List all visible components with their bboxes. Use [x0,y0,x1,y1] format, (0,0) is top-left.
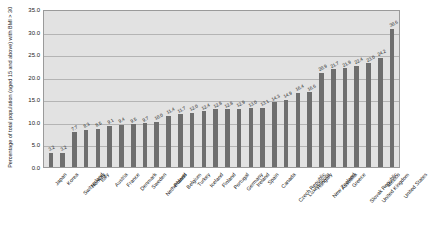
bar-slot: 10.0 [151,11,163,167]
bar: 11.4 [166,116,171,167]
bar: 14.3 [272,102,277,167]
bar-slot: 7.7 [69,11,81,167]
bar: 23.0 [366,63,371,167]
x-label-slot: Hungary [304,169,316,239]
x-label-slot: Sweden [139,169,151,239]
bar-slot: 12.4 [198,11,210,167]
bar-slot: 3.2 [57,11,69,167]
bar-series: 3.23.27.78.38.59.19.49.59.710.011.411.71… [44,11,399,167]
bar-slot: 8.5 [92,11,104,167]
x-label-slot: Mexico [375,169,387,239]
x-label-slot: Germany [233,169,245,239]
y-axis-tick: 35.0 [28,7,40,13]
x-label-slot: Netherlands [150,169,162,239]
x-label-slot: France [115,169,127,239]
bar-value-label: 30.6 [389,20,399,29]
bar-slot: 8.3 [80,11,92,167]
bar-slot: 12.8 [221,11,233,167]
bar-value-label: 8.5 [95,121,103,128]
x-label-slot: Canada [269,169,281,239]
x-label-slot: Denmark [127,169,139,239]
bar: 8.3 [84,130,89,167]
x-label-slot: Switzerland [68,169,80,239]
bar: 21.7 [331,69,336,167]
x-label-slot: Australia [328,169,340,239]
bar-slot: 21.9 [339,11,351,167]
bar: 10.0 [154,122,159,167]
bar: 11.7 [178,114,183,167]
bar-slot: 9.4 [116,11,128,167]
bar: 7.7 [72,132,77,167]
y-axis-tick: 20.0 [28,75,40,81]
bar-value-label: 3.2 [59,145,67,152]
bar-slot: 30.6 [386,11,398,167]
bar: 16.6 [307,92,312,167]
bar-slot: 9.7 [139,11,151,167]
bar-slot: 20.9 [316,11,328,167]
bar-slot: 14.3 [269,11,281,167]
y-axis-tick: 10.0 [28,120,40,126]
bar-value-label: 9.1 [106,118,114,125]
bar: 3.2 [60,153,65,167]
y-axis-tick: 25.0 [28,52,40,58]
y-axis-title-text: Percentage of total population (aged 15 … [8,7,15,168]
y-axis-tick: 30.0 [28,30,40,36]
x-label-slot: Luxembourg [292,169,304,239]
bar-slot: 12.0 [186,11,198,167]
bar-value-label: 8.3 [83,122,91,129]
bar: 9.7 [143,123,148,167]
bar-slot: 16.6 [304,11,316,167]
x-axis-category-labels: JapanKoreaSwitzerlandNorwayItalyAustriaF… [43,169,400,239]
x-label-slot: New Zealand [316,169,328,239]
y-axis-tick-labels: 0.05.010.015.020.025.030.035.0 [20,10,42,168]
bar-slot: 21.7 [327,11,339,167]
bar: 9.4 [119,125,124,167]
bar-value-label: 9.4 [118,117,126,124]
bar: 8.5 [96,129,101,167]
bar: 21.9 [343,68,348,167]
bar-slot: 16.4 [292,11,304,167]
y-axis-tick: 15.0 [28,97,40,103]
bar-slot: 11.4 [163,11,175,167]
plot-area: 3.23.27.78.38.59.19.49.59.710.011.411.71… [43,10,400,168]
x-label-slot: Ireland [245,169,257,239]
x-label-slot: Spain [257,169,269,239]
x-label-slot: Italy [91,169,103,239]
x-label-slot: United States [387,169,399,239]
x-label-slot: Korea [56,169,68,239]
bar: 22.4 [354,66,359,167]
bar: 16.4 [296,93,301,167]
bar: 13.1 [260,108,265,167]
bar-value-label: 3.2 [48,145,56,152]
x-label-slot: United Kingdom [363,169,375,239]
x-label-slot: Austria [103,169,115,239]
bar: 12.0 [190,113,195,167]
x-label-slot: Greece [340,169,352,239]
bar-slot: 11.7 [174,11,186,167]
bar-value-label: 9.7 [142,115,150,122]
bar-slot: 13.0 [245,11,257,167]
bar-slot: 9.5 [127,11,139,167]
bar: 24.2 [378,58,383,167]
bar-slot: 22.4 [351,11,363,167]
bar-value-label: 9.5 [130,116,138,123]
bar: 9.5 [131,124,136,167]
x-label-slot: Turkey [186,169,198,239]
x-label-slot: Slovak Republic [352,169,364,239]
x-label-slot: Czech Republic [281,169,293,239]
x-label-slot: Belgium [174,169,186,239]
bar: 3.2 [49,153,54,167]
bar-value-label: 7.7 [71,124,79,131]
bar-slot: 12.9 [233,11,245,167]
x-label-slot: Portugal [221,169,233,239]
bar: 12.8 [225,109,230,167]
x-label-slot: Norway [79,169,91,239]
y-axis-title: Percentage of total population (aged 15 … [0,0,22,175]
bar: 12.9 [237,109,242,167]
bar-slot: 13.1 [257,11,269,167]
bar: 9.1 [107,126,112,167]
bar-slot: 23.0 [363,11,375,167]
bar: 20.9 [319,73,324,167]
bar: 13.0 [249,108,254,167]
